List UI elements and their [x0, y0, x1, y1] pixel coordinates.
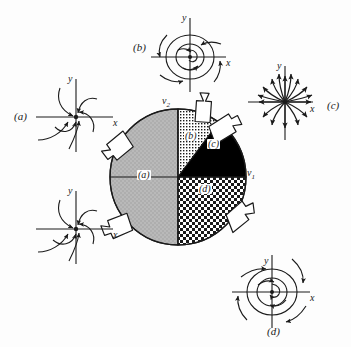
disc-region-label-a: (a) [137, 170, 151, 180]
panel-b[interactable] [151, 18, 226, 92]
disc-region-label-b: (b) [184, 131, 198, 141]
panel-d[interactable] [232, 255, 310, 328]
panel-a-lower-equilibrium [74, 227, 78, 231]
figure-canvas [0, 0, 351, 347]
panel-b-equilibrium [188, 55, 192, 59]
panel-a-lower-x-label: x [113, 230, 117, 240]
disc-region-label-d: (d) [198, 184, 212, 194]
callout-b[interactable] [195, 93, 212, 123]
panel-a-upper-trajectories [38, 88, 97, 149]
panel-label-b: (b) [133, 42, 146, 53]
panel-a-upper-x-label: x [113, 118, 117, 128]
panel-c-x-label: x [310, 104, 314, 114]
disc-region-label-c: (c) [207, 139, 220, 149]
disc-axis-label-v2: v2 [162, 96, 170, 109]
panel-a-lower-trajectories [38, 200, 97, 261]
figure-root: v2 v1 (a) (b) (c) (d) (a) x y x y (b) x … [0, 0, 351, 347]
panel-a-upper[interactable] [36, 79, 113, 152]
panel-d-y-label: y [264, 256, 268, 266]
panel-a-upper-equilibrium [74, 115, 78, 119]
disc-axis-label-v1: v1 [247, 168, 255, 181]
panel-d-x-label: x [310, 293, 314, 303]
panel-c-rays [258, 74, 312, 128]
panel-c[interactable] [248, 66, 313, 140]
panel-b-y-label: y [182, 13, 186, 23]
panel-label-c: (c) [327, 100, 339, 111]
panel-a-lower-y-label: y [68, 186, 72, 196]
panel-d-equilibrium [270, 290, 274, 294]
panel-c-y-label: y [277, 61, 281, 71]
panel-label-a-upper: (a) [14, 111, 27, 122]
panel-a-upper-y-label: y [68, 74, 72, 84]
panel-b-x-label: x [226, 58, 230, 68]
panel-label-d: (d) [267, 326, 280, 337]
